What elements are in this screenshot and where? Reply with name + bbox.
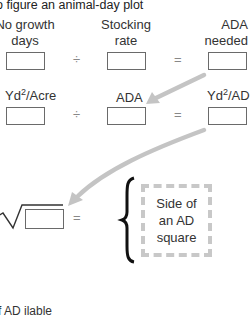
sqrt-input[interactable] (25, 209, 64, 229)
brace-icon (122, 178, 134, 262)
side-of-ad-square-label: Side of an AD square (141, 195, 212, 246)
bottom-text-cutoff: f AD ilable (0, 304, 52, 318)
straight-arrow-icon (146, 75, 204, 104)
equals-operator: = (73, 210, 81, 225)
